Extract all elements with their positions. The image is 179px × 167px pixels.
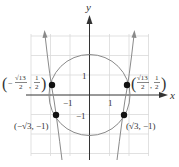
svg-text:2: 2 [155, 83, 159, 91]
svg-text:√13: √13 [15, 74, 26, 82]
right-branch-arrow-icon [132, 30, 137, 38]
tick-x-pos: 1 [108, 98, 113, 108]
x-axis-label: x [169, 89, 175, 101]
svg-text:): ) [41, 75, 46, 93]
svg-text:,: , [150, 81, 152, 90]
label-lower-right: (√3, −1) [126, 121, 156, 131]
graph: x y 1 −1 1 −1 ( − √13 2 , 1 2 ) ( √13 2 … [0, 0, 179, 167]
right-branch-curve [117, 35, 134, 160]
svg-text:2: 2 [19, 83, 23, 91]
svg-text:(: ( [2, 75, 7, 93]
svg-text:√13: √13 [137, 74, 148, 82]
left-branch-curve [45, 35, 62, 160]
point-upper-right [124, 82, 130, 88]
svg-text:2: 2 [141, 83, 145, 91]
svg-text:,: , [29, 81, 31, 90]
svg-text:1: 1 [155, 74, 159, 82]
point-upper-left [49, 82, 55, 88]
svg-text:−: − [8, 79, 13, 88]
tick-x-neg: −1 [63, 98, 73, 108]
tick-y-pos: 1 [82, 71, 87, 81]
left-branch-arrow-icon [43, 30, 48, 38]
svg-text:): ) [161, 75, 166, 93]
tick-y-neg: −1 [76, 111, 86, 121]
point-lower-left [53, 112, 59, 118]
x-axis-arrow-icon [159, 92, 168, 98]
y-axis-arrow-icon [87, 15, 93, 24]
label-upper-left: ( − √13 2 , 1 2 ) [2, 74, 46, 93]
label-lower-left: (−√3, −1) [14, 121, 49, 131]
point-lower-right [121, 112, 127, 118]
svg-text:1: 1 [35, 74, 39, 82]
svg-text:2: 2 [35, 83, 39, 91]
svg-text:(: ( [131, 75, 136, 93]
y-axis-label: y [85, 1, 91, 13]
